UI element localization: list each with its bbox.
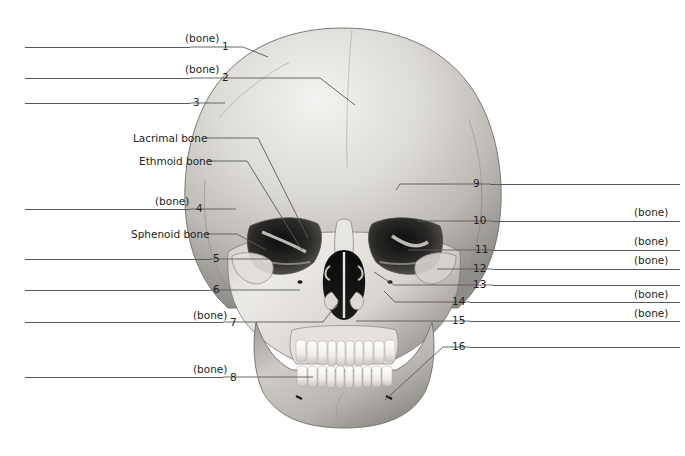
- bone-note-15: (bone): [634, 308, 668, 319]
- answer-rule-10[interactable]: [493, 221, 680, 222]
- label-number-8: 8: [230, 372, 237, 383]
- bone-note-12: (bone): [634, 255, 668, 266]
- answer-rule-6[interactable]: [25, 290, 210, 291]
- label-number-3: 3: [193, 97, 200, 108]
- answer-rule-15[interactable]: [470, 321, 680, 322]
- answer-rule-16[interactable]: [470, 347, 680, 348]
- bone-note-8: (bone): [193, 364, 227, 375]
- answer-rule-12[interactable]: [493, 269, 680, 270]
- label-text-L2: Ethmoid bone: [139, 156, 212, 167]
- label-number-10: 10: [473, 215, 486, 226]
- answer-rule-5[interactable]: [25, 259, 210, 260]
- bone-note-14: (bone): [634, 289, 668, 300]
- answer-rule-11[interactable]: [493, 250, 680, 251]
- label-number-12: 12: [473, 263, 486, 274]
- label-number-2: 2: [222, 72, 229, 83]
- bone-note-10: (bone): [634, 207, 668, 218]
- label-number-11: 11: [475, 244, 488, 255]
- label-number-13: 13: [473, 279, 486, 290]
- answer-rule-13[interactable]: [493, 285, 680, 286]
- label-number-4: 4: [196, 203, 203, 214]
- label-number-7: 7: [230, 317, 237, 328]
- label-text-L3: Sphenoid bone: [131, 229, 210, 240]
- label-number-5: 5: [213, 253, 220, 264]
- figure-page: (bone)1(bone)23Lacrimal boneEthmoid bone…: [0, 0, 685, 456]
- answer-rule-7[interactable]: [25, 322, 223, 323]
- bone-note-2: (bone): [185, 64, 219, 75]
- label-number-1: 1: [222, 41, 229, 52]
- answer-rule-3[interactable]: [25, 103, 190, 104]
- bone-note-11: (bone): [634, 236, 668, 247]
- answer-rule-1[interactable]: [25, 47, 190, 48]
- label-number-15: 15: [452, 315, 465, 326]
- skull-illustration: [0, 0, 685, 456]
- label-text-L1: Lacrimal bone: [133, 133, 207, 144]
- answer-rule-2[interactable]: [25, 78, 190, 79]
- infraorbital-foramen-left: [297, 280, 302, 283]
- label-number-14: 14: [452, 296, 465, 307]
- label-number-16: 16: [452, 341, 465, 352]
- bone-note-4: (bone): [155, 196, 189, 207]
- answer-rule-8[interactable]: [25, 377, 223, 378]
- label-number-9: 9: [473, 178, 480, 189]
- answer-rule-14[interactable]: [470, 302, 680, 303]
- answer-rule-4[interactable]: [25, 209, 190, 210]
- bone-note-7: (bone): [193, 310, 227, 321]
- label-number-6: 6: [213, 284, 220, 295]
- skull-drawing: [185, 28, 501, 428]
- answer-rule-9[interactable]: [490, 184, 680, 185]
- bone-note-1: (bone): [185, 33, 219, 44]
